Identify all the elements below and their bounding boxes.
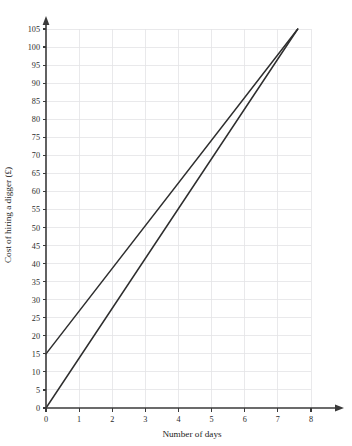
y-tick-label: 90 <box>32 79 40 88</box>
y-tick-label: 15 <box>32 350 40 359</box>
x-tick-label: 3 <box>143 415 147 424</box>
y-tick-label: 25 <box>32 314 40 323</box>
x-tick-label: 7 <box>276 415 280 424</box>
y-tick-label: 65 <box>32 169 40 178</box>
x-tick-label: 5 <box>210 415 214 424</box>
x-tick-label: 4 <box>176 415 180 424</box>
y-tick-label: 105 <box>28 25 40 34</box>
x-tick-label: 2 <box>110 415 114 424</box>
y-tick-label: 10 <box>32 368 40 377</box>
y-tick-label: 45 <box>32 242 40 251</box>
x-tick-label: 1 <box>77 415 81 424</box>
chart-container: 0510152025303540455055606570758085909510… <box>0 0 352 446</box>
y-tick-label: 100 <box>28 43 40 52</box>
y-tick-label: 0 <box>36 404 40 413</box>
y-tick-label: 5 <box>36 386 40 395</box>
y-tick-label: 40 <box>32 260 40 269</box>
y-tick-label: 50 <box>32 224 40 233</box>
y-tick-label: 95 <box>32 61 40 70</box>
y-tick-label: 70 <box>32 151 40 160</box>
y-tick-label: 55 <box>32 205 40 214</box>
x-tick-label: 6 <box>243 415 247 424</box>
x-tick-label: 8 <box>309 415 313 424</box>
y-tick-label: 85 <box>32 97 40 106</box>
y-tick-label: 30 <box>32 296 40 305</box>
y-tick-label: 20 <box>32 332 40 341</box>
x-axis-title: Number of days <box>162 429 222 439</box>
y-tick-label: 75 <box>32 133 40 142</box>
line-chart: 0510152025303540455055606570758085909510… <box>0 0 352 446</box>
x-tick-label: 0 <box>44 415 48 424</box>
y-tick-label: 60 <box>32 187 40 196</box>
y-tick-label: 80 <box>32 115 40 124</box>
y-axis-title: Cost of hiring a digger (£) <box>3 167 13 263</box>
chart-background <box>0 0 352 446</box>
y-tick-label: 35 <box>32 278 40 287</box>
